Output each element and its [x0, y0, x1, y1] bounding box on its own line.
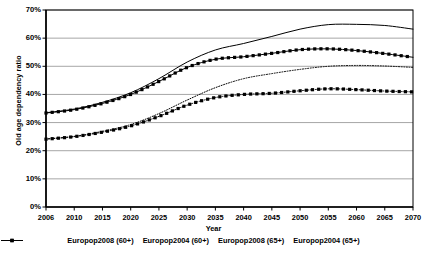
x-axis-title: Year [0, 224, 427, 233]
series-marker [57, 110, 60, 113]
series-marker [336, 87, 339, 90]
series-marker [367, 89, 370, 92]
series-marker [295, 48, 298, 51]
series-marker [354, 88, 357, 91]
series-marker [188, 103, 191, 106]
series-marker [105, 101, 108, 104]
x-axis-tick-label: 2015 [87, 213, 117, 222]
series-marker [391, 90, 394, 93]
series-marker [326, 47, 329, 50]
series-marker [348, 88, 351, 91]
series-marker [393, 53, 396, 56]
series-marker [87, 105, 90, 108]
series-marker [381, 52, 384, 55]
series-marker [69, 109, 72, 112]
series-marker [63, 109, 66, 112]
series-marker [249, 92, 252, 95]
series-marker [400, 54, 403, 57]
series-marker [239, 55, 242, 58]
series-marker [311, 88, 314, 91]
legend-marker [10, 239, 13, 242]
series-marker [81, 106, 84, 109]
series-marker [212, 96, 215, 99]
x-axis-tick-label: 2030 [172, 213, 202, 222]
series-line [46, 24, 413, 113]
x-axis-tick-label: 2070 [398, 213, 427, 222]
x-axis-tick-label: 2045 [257, 213, 287, 222]
series-marker [117, 97, 120, 100]
series-marker [163, 77, 166, 80]
legend-item: Europop2008 (60+) [67, 236, 133, 245]
series-1 [46, 24, 413, 113]
series-marker [112, 128, 115, 131]
line-dashdot-square-icon [0, 236, 24, 245]
series-marker [140, 88, 143, 91]
series-marker [317, 88, 320, 91]
series-marker [99, 102, 102, 105]
series-marker [206, 98, 209, 101]
x-axis-tick-label: 2060 [342, 213, 372, 222]
series-3 [46, 65, 413, 138]
x-axis-tick-label: 2010 [59, 213, 89, 222]
series-marker [111, 99, 114, 102]
series-marker [305, 89, 308, 92]
series-marker [280, 91, 283, 94]
series-marker [274, 91, 277, 94]
series-marker [69, 135, 72, 138]
series-marker [75, 108, 78, 111]
series-marker [406, 55, 409, 58]
series-marker [387, 53, 390, 56]
series-marker [288, 49, 291, 52]
series-marker [88, 133, 91, 136]
series-marker [286, 90, 289, 93]
series-marker [255, 92, 258, 95]
series-marker [100, 131, 103, 134]
plot-border [46, 10, 413, 207]
series-marker [258, 53, 261, 56]
series-marker [270, 52, 273, 55]
x-axis-tick-label: 2025 [144, 213, 174, 222]
chart-legend: Europop2008 (60+)Europop2004 (60+)Europo… [0, 236, 427, 245]
series-marker [179, 69, 182, 72]
x-axis-tick-label: 2006 [31, 213, 61, 222]
series-marker [276, 51, 279, 54]
series-marker [385, 90, 388, 93]
series-marker [63, 136, 66, 139]
series-marker [319, 47, 322, 50]
series-marker [323, 87, 326, 90]
series-marker [360, 88, 363, 91]
series-marker [123, 95, 126, 98]
series-marker [94, 132, 97, 135]
series-4 [44, 87, 413, 141]
series-marker [410, 90, 413, 93]
series-marker [129, 93, 132, 96]
series-line [46, 65, 413, 138]
series-marker [168, 74, 171, 77]
series-marker [356, 49, 359, 52]
legend-item: Europop2004 (65+) [293, 236, 359, 245]
series-marker [344, 48, 347, 51]
legend-label: Europop2004 (60+) [143, 236, 209, 245]
x-axis-tick-label: 2065 [370, 213, 400, 222]
legend-item: Europop2004 (60+) [143, 236, 209, 245]
x-axis-tick-label: 2040 [229, 213, 259, 222]
series-marker [404, 90, 407, 93]
series-marker [191, 64, 194, 67]
x-axis-tick-label: 2020 [116, 213, 146, 222]
series-marker [332, 47, 335, 50]
series-marker [231, 94, 234, 97]
series-marker [261, 92, 264, 95]
series-marker [185, 66, 188, 69]
series-marker [252, 54, 255, 57]
legend-label: Europop2008 (65+) [218, 236, 284, 245]
series-marker [301, 48, 304, 51]
series-marker [338, 48, 341, 51]
series-marker [182, 105, 185, 108]
series-marker [142, 120, 145, 123]
series-marker [373, 89, 376, 92]
series-marker [264, 53, 267, 56]
series-marker [200, 99, 203, 102]
series-marker [329, 87, 332, 90]
series-marker [227, 56, 230, 59]
series-marker [202, 60, 205, 63]
